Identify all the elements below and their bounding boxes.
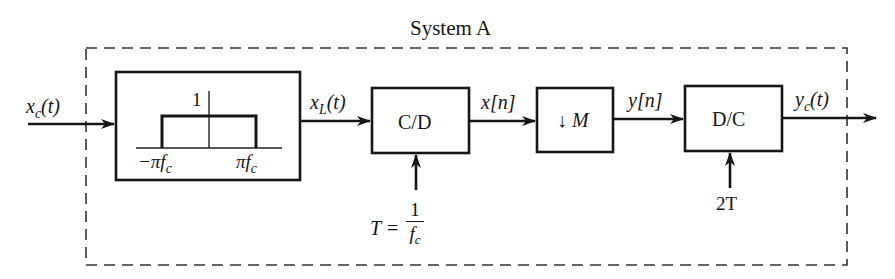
cd-period-lhs: T = (370, 218, 399, 238)
cd-period-numerator: 1 (410, 200, 420, 221)
downsampled-signal-label: y[n] (628, 90, 662, 110)
filter-left-cutoff-label: −πfc (138, 152, 172, 171)
cd-period-denominator: fc (409, 222, 420, 243)
down-arrow-icon: ↓ (557, 109, 567, 131)
cd-block-label: C/D (398, 112, 431, 132)
filter-gain-label: 1 (192, 90, 202, 109)
dc-period-label: 2T (716, 194, 737, 213)
input-signal-label: xc(t) (26, 96, 60, 116)
sampled-signal-label: x[n] (481, 92, 515, 112)
block-diagram-canvas (0, 0, 895, 279)
output-signal-label: yc(t) (795, 89, 829, 109)
dc-block-label: D/C (712, 109, 745, 129)
filter-right-cutoff-label: πfc (236, 152, 257, 171)
cd-period-fraction: 1 fc (406, 200, 424, 243)
system-title: System A (410, 18, 491, 39)
filtered-signal-label: xL(t) (310, 92, 346, 112)
downsampler-label: ↓ M (557, 110, 589, 130)
